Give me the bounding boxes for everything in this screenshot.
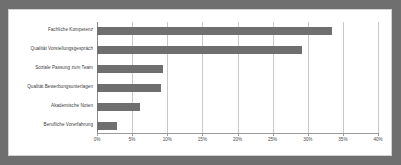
tick-mark-35	[343, 133, 344, 136]
xtick-label-0: 0%	[94, 137, 101, 143]
bar-2	[97, 65, 163, 73]
xtick-label-6: 30%	[303, 137, 312, 143]
chart-body: Fachliche Kompetenz Qualität Vorstellung…	[0, 0, 401, 165]
bar-5	[97, 122, 117, 130]
tick-mark-25	[273, 133, 274, 136]
tick-mark-15	[202, 133, 203, 136]
bars-layer	[97, 22, 378, 133]
gridline-40	[378, 22, 379, 133]
category-label-5: Berufliche Vorerfahrung	[44, 122, 93, 128]
tick-mark-30	[308, 133, 309, 136]
bar-4	[97, 103, 140, 111]
bar-0	[97, 27, 332, 35]
category-label-4: Akademische Noten	[51, 103, 93, 109]
xtick-label-5: 25%	[268, 137, 277, 143]
bar-1	[97, 46, 302, 54]
tick-mark-5	[132, 133, 133, 136]
xtick-label-7: 35%	[338, 137, 347, 143]
tick-mark-0	[97, 133, 98, 136]
xtick-label-3: 15%	[198, 137, 207, 143]
xtick-label-4: 20%	[233, 137, 242, 143]
category-label-1: Qualität Vorstellungsgespräch	[31, 46, 93, 52]
category-label-0: Fachliche Kompetenz	[48, 27, 93, 33]
category-label-2: Soziale Passung zum Team	[35, 65, 93, 71]
bar-chart-figure: Fachliche Kompetenz Qualität Vorstellung…	[0, 0, 401, 165]
xtick-label-1: 5%	[129, 137, 136, 143]
category-axis-labels: Fachliche Kompetenz Qualität Vorstellung…	[0, 0, 93, 165]
xtick-label-8: 40%	[373, 137, 382, 143]
category-label-3: Qualität Bewerbungsunterlagen	[27, 84, 93, 90]
tick-mark-20	[238, 133, 239, 136]
tick-mark-10	[167, 133, 168, 136]
bar-3	[97, 84, 161, 92]
xtick-label-2: 10%	[163, 137, 172, 143]
tick-mark-40	[378, 133, 379, 136]
